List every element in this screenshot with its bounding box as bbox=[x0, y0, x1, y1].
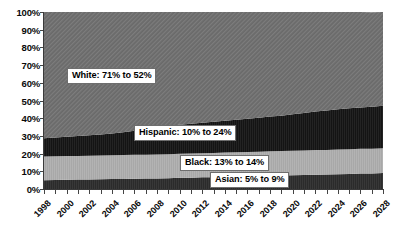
x-tick-label: 2028 bbox=[365, 198, 392, 225]
y-tick-label: 70% bbox=[0, 60, 40, 71]
hispanic-callout: Hispanic: 10% to 24% bbox=[134, 125, 236, 141]
x-tick-label: 2004 bbox=[94, 198, 121, 225]
x-tick-label: 2018 bbox=[252, 198, 279, 225]
x-tick-mark bbox=[123, 190, 124, 194]
y-tick-label: 0% bbox=[0, 184, 40, 195]
black-callout: Black: 13% to 14% bbox=[180, 155, 269, 171]
x-tick-label: 2008 bbox=[139, 198, 166, 225]
y-tick-label: 100% bbox=[0, 7, 40, 18]
x-tick-label: 2024 bbox=[320, 198, 347, 225]
x-tick-label: 2002 bbox=[71, 198, 98, 225]
stacked-area-chart: 100%90%80%70%60%50%40%30%20%10%0% bbox=[0, 0, 400, 235]
y-tick-label: 30% bbox=[0, 130, 40, 141]
y-tick-label: 20% bbox=[0, 148, 40, 159]
x-tick-mark bbox=[338, 190, 339, 194]
x-tick-mark bbox=[180, 190, 181, 194]
x-tick-label: 2010 bbox=[162, 198, 189, 225]
x-tick-mark bbox=[89, 190, 90, 194]
x-tick-label: 2012 bbox=[184, 198, 211, 225]
x-tick-mark bbox=[191, 190, 192, 194]
x-tick-label: 2014 bbox=[207, 198, 234, 225]
x-tick-mark bbox=[101, 190, 102, 194]
x-tick-label: 2022 bbox=[297, 198, 324, 225]
x-tick-mark bbox=[168, 190, 169, 194]
x-tick-label: 2006 bbox=[117, 198, 144, 225]
x-tick-label: 2026 bbox=[343, 198, 370, 225]
x-tick-mark bbox=[281, 190, 282, 194]
y-tick-label: 90% bbox=[0, 24, 40, 35]
x-tick-mark bbox=[304, 190, 305, 194]
x-tick-mark bbox=[44, 190, 45, 194]
y-tick-label: 50% bbox=[0, 95, 40, 106]
x-tick-mark bbox=[349, 190, 350, 194]
x-tick-mark bbox=[247, 190, 248, 194]
y-tick-label: 60% bbox=[0, 77, 40, 88]
y-tick-label: 40% bbox=[0, 113, 40, 124]
x-tick-mark bbox=[55, 190, 56, 194]
x-tick-mark bbox=[259, 190, 260, 194]
y-tick-label: 80% bbox=[0, 42, 40, 53]
x-tick-mark bbox=[134, 190, 135, 194]
x-tick-label: 2000 bbox=[49, 198, 76, 225]
x-tick-label: 1998 bbox=[26, 198, 53, 225]
x-tick-mark bbox=[293, 190, 294, 194]
x-tick-mark bbox=[383, 190, 384, 194]
x-tick-mark bbox=[146, 190, 147, 194]
x-tick-mark bbox=[236, 190, 237, 194]
x-tick-mark bbox=[360, 190, 361, 194]
x-tick-mark bbox=[372, 190, 373, 194]
x-tick-mark bbox=[78, 190, 79, 194]
x-tick-label: 2016 bbox=[230, 198, 257, 225]
x-tick-mark bbox=[157, 190, 158, 194]
asian-callout: Asian: 5% to 9% bbox=[210, 172, 289, 188]
x-tick-mark bbox=[315, 190, 316, 194]
y-tick-label: 10% bbox=[0, 166, 40, 177]
x-tick-label: 2020 bbox=[275, 198, 302, 225]
x-tick-mark bbox=[327, 190, 328, 194]
x-tick-mark bbox=[225, 190, 226, 194]
x-tick-mark bbox=[67, 190, 68, 194]
x-tick-mark bbox=[214, 190, 215, 194]
x-tick-mark bbox=[270, 190, 271, 194]
x-tick-mark bbox=[112, 190, 113, 194]
x-tick-mark bbox=[202, 190, 203, 194]
white-callout: White: 71% to 52% bbox=[67, 68, 156, 84]
